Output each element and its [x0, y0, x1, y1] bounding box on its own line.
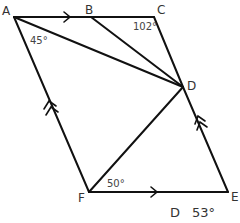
segment-FD — [89, 87, 183, 192]
angle-label-C: 102° — [133, 21, 157, 32]
vertex-label-C: C — [157, 3, 165, 17]
vertex-label-E: E — [231, 190, 239, 204]
vertex-label-A: A — [2, 4, 11, 18]
segment-DE — [183, 87, 228, 192]
vertex-label-D: D — [187, 79, 196, 93]
geometry-diagram: A B C D E F 45° 102° 50° D 53° — [0, 0, 240, 223]
caption-value: 53° — [192, 205, 215, 220]
caption-letter: D — [170, 205, 180, 220]
vertex-label-B: B — [85, 3, 93, 17]
angle-label-A: 45° — [30, 35, 48, 46]
angle-label-F: 50° — [107, 178, 125, 189]
vertex-label-F: F — [78, 191, 85, 205]
